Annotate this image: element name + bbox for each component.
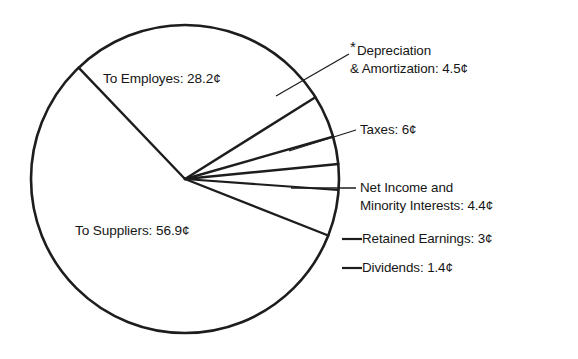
slice-divider-employes-depreciation — [185, 97, 315, 179]
leader-line-depreciation — [276, 54, 349, 96]
slice-label-to-suppliers: To Suppliers: 56.9¢ — [75, 222, 189, 240]
slice-label-depreciation-line1: Depreciation — [357, 42, 431, 60]
pie-chart-figure: To Employes: 28.2¢ To Suppliers: 56.9¢ *… — [0, 0, 578, 359]
slice-label-to-employes: To Employes: 28.2¢ — [103, 70, 221, 88]
slice-label-taxes: Taxes: 6¢ — [360, 121, 416, 139]
leader-line-taxes — [289, 130, 356, 151]
legend-label-dividends: Dividends: 1.4¢ — [362, 259, 453, 277]
pie-chart-graphic — [0, 0, 578, 359]
footnote-asterisk-icon: * — [350, 39, 356, 54]
slice-label-net-income-line2: Minority Interests: 4.4¢ — [360, 197, 493, 215]
legend-label-retained-earnings: Retained Earnings: 3¢ — [362, 230, 492, 248]
slice-label-depreciation-line2: & Amortization: 4.5¢ — [350, 60, 468, 78]
slice-label-net-income-line1: Net Income and — [360, 179, 453, 197]
